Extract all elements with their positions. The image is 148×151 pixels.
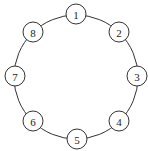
- node-label: 8: [30, 27, 36, 39]
- node-5: 5: [67, 129, 87, 149]
- node-1: 1: [66, 4, 86, 24]
- node-label: 2: [116, 27, 122, 39]
- node-label: 5: [74, 134, 80, 146]
- node-3: 3: [127, 66, 147, 86]
- node-8: 8: [23, 22, 43, 42]
- node-label: 1: [73, 9, 79, 21]
- node-2: 2: [109, 22, 129, 42]
- node-label: 3: [134, 71, 140, 83]
- nodes-group: 12345678: [5, 4, 147, 149]
- ring-diagram: 12345678: [0, 0, 148, 151]
- node-label: 4: [116, 116, 122, 128]
- node-4: 4: [109, 111, 129, 131]
- node-label: 7: [12, 71, 18, 83]
- node-7: 7: [5, 66, 25, 86]
- node-6: 6: [23, 111, 43, 131]
- node-label: 6: [30, 116, 36, 128]
